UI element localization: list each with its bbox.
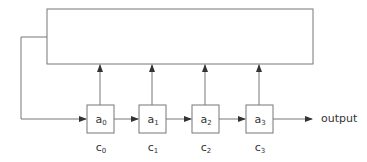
register-label-a2: a2 [192, 114, 220, 127]
coefficient-label-c3: c3 [246, 142, 274, 155]
lfsr-diagram [0, 0, 367, 162]
register-label-a3: a3 [246, 114, 274, 127]
feedback-line [21, 37, 86, 119]
coefficient-label-c2: c2 [192, 142, 220, 155]
coefficient-label-c0: c0 [87, 142, 115, 155]
output-label: output [321, 113, 357, 124]
register-label-a0: a0 [87, 114, 115, 127]
register-label-a1: a1 [139, 114, 167, 127]
feedback-function-box [47, 9, 313, 64]
coefficient-label-c1: c1 [139, 142, 167, 155]
